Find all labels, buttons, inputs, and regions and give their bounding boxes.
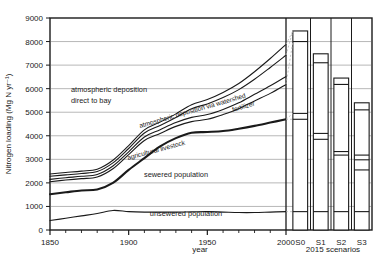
scenario-bar xyxy=(313,54,328,230)
y-tick-label: 6000 xyxy=(25,85,43,94)
scenario-axis-title: 2015 scenarios xyxy=(306,245,360,254)
annotation-sewered-population: sewered population xyxy=(144,170,208,179)
x-tick-label: 2000 xyxy=(277,238,295,247)
annotation-atmospheric-direct-line1: atmospheric deposition xyxy=(71,85,147,94)
annotation-unsewered-population: unsewered population xyxy=(150,209,222,218)
nitrogen-loading-chart: 0100020003000400050006000700080009000 18… xyxy=(0,0,379,263)
x-tick-label: 1850 xyxy=(41,238,59,247)
y-tick-label: 8000 xyxy=(25,38,43,47)
y-axis-title: Nitrogen loading (Mg N yr⁻¹) xyxy=(4,73,13,174)
scenario-bar xyxy=(293,31,308,230)
scenario-bar xyxy=(354,103,369,230)
scenario-bar xyxy=(334,78,349,230)
y-tick-label: 5000 xyxy=(25,108,43,117)
y-tick-label: 3000 xyxy=(25,155,43,164)
y-tick-label: 1000 xyxy=(25,202,43,211)
y-tick-label: 0 xyxy=(39,226,44,235)
scenario-tick-label: S0 xyxy=(295,238,305,247)
y-tick-label: 2000 xyxy=(25,179,43,188)
x-axis-title: year xyxy=(192,245,208,254)
y-tick-label: 4000 xyxy=(25,132,43,141)
x-tick-label: 1900 xyxy=(120,238,138,247)
y-tick-label: 7000 xyxy=(25,61,43,70)
y-tick-label: 9000 xyxy=(25,14,43,23)
annotation-atmospheric-direct-line2: direct to bay xyxy=(71,96,112,105)
figure-container: 0100020003000400050006000700080009000 18… xyxy=(0,0,379,263)
